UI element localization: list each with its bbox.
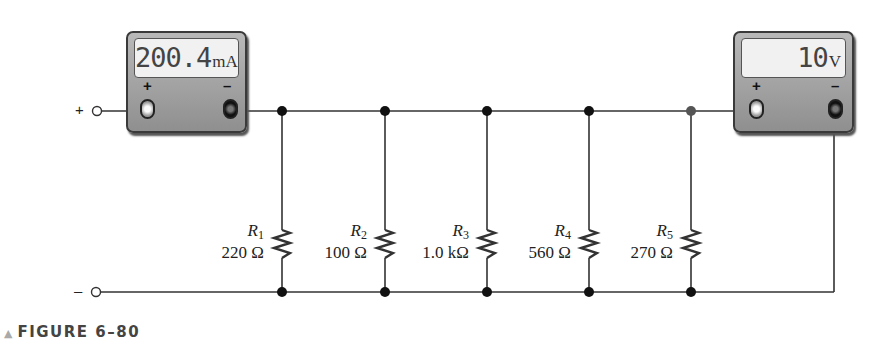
resistor-value: 1.0 kΩ [394,244,469,262]
branch-r1 [274,111,290,292]
voltmeter-reading: 10 [797,42,828,73]
positive-terminal-icon [93,107,102,116]
resistor-label-r4: R4 560 Ω [503,222,571,262]
figure-caption: ▲FIGURE 6–80 [4,323,140,341]
ammeter: 200.4mA + – [126,31,247,133]
resistor-label-r3: R3 1.0 kΩ [394,222,469,262]
voltmeter: 10V + – [733,31,854,133]
ammeter-neg-sign: – [223,77,231,94]
caption-marker-icon: ▲ [4,327,12,340]
caption-label: FIGURE 6–80 [17,323,140,341]
branch-r5 [683,111,699,292]
ammeter-positive-jack-icon [140,99,155,119]
voltmeter-display: 10V [741,38,846,78]
voltmeter-unit: V [829,52,841,71]
resistor-value: 100 Ω [299,244,367,262]
ammeter-negative-jack-icon [223,99,238,119]
resistor-value: 220 Ω [196,244,264,262]
voltmeter-pos-sign: + [752,77,761,94]
resistor-label-r2: R2 100 Ω [299,222,367,262]
negative-terminal-label: – [74,282,82,299]
branch-r3 [479,111,495,292]
positive-terminal-label: + [75,101,84,118]
resistor-label-r1: R1 220 Ω [196,222,264,262]
branch-r2 [377,111,393,292]
branch-r4 [581,111,597,292]
negative-terminal-icon [92,288,101,297]
ammeter-pos-sign: + [143,77,152,94]
ammeter-unit: mA [212,52,238,71]
voltmeter-neg-sign: – [831,77,839,94]
voltmeter-negative-jack-icon [828,99,843,119]
ammeter-display: 200.4mA [134,38,239,78]
resistor-value: 270 Ω [605,244,673,262]
resistor-label-r5: R5 270 Ω [605,222,673,262]
resistor-value: 560 Ω [503,244,571,262]
ammeter-reading: 200.4 [135,42,211,73]
voltmeter-positive-jack-icon [749,99,764,119]
